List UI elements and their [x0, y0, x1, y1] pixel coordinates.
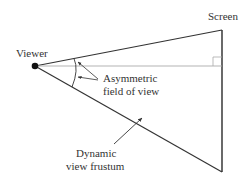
frustum-label-line1: Dynamic	[76, 147, 116, 159]
asymmetric-frustum-diagram: Screen Viewer Asymmetric field of view D…	[0, 0, 250, 182]
viewer-point-icon	[32, 63, 39, 70]
viewer-label: Viewer	[16, 47, 48, 59]
right-angle-marker	[213, 57, 222, 66]
fov-arrow-top	[78, 62, 98, 79]
asymmetric-fov-label-line2: field of view	[103, 85, 159, 97]
frustum-arrow	[114, 118, 142, 144]
fov-arrow-bottom	[78, 77, 98, 80]
frustum-top-edge	[35, 30, 222, 66]
asymmetric-fov-label-line1: Asymmetric	[103, 72, 157, 84]
screen-label: Screen	[208, 10, 238, 22]
frustum-label-line2: view frustum	[66, 160, 125, 172]
fov-arc	[72, 59, 76, 88]
